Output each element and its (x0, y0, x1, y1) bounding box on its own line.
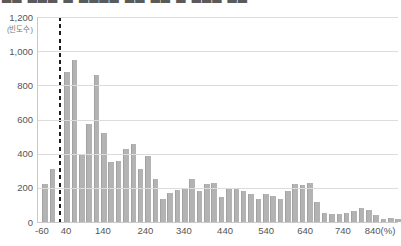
histogram-bar (270, 196, 276, 222)
histogram-bar (101, 133, 107, 222)
histogram-bar (138, 169, 144, 222)
histogram-bar (241, 191, 247, 222)
histogram-bar (256, 199, 262, 222)
x-tick-label: 840(%) (365, 225, 396, 236)
y-tick-label: 0 (0, 217, 33, 228)
histogram-bar (131, 144, 137, 222)
histogram-bar (322, 213, 328, 222)
gridline-1200 (38, 17, 399, 18)
histogram-bar (344, 213, 350, 222)
gridline-600 (38, 120, 399, 121)
frequency-histogram: ██ ███ █ ████ ██ ██ █ ███ ██ (빈도수) 02004… (0, 0, 401, 246)
y-tick-label: 800 (0, 80, 33, 91)
x-tick-label: -60 (35, 225, 49, 236)
gridline-200 (38, 188, 399, 189)
histogram-bar (300, 185, 306, 222)
histogram-bar (182, 188, 188, 222)
histogram-bar (167, 193, 173, 222)
x-tick-label: 640 (297, 225, 313, 236)
y-tick-label: 1,200 (0, 12, 33, 23)
histogram-bar (204, 184, 210, 222)
histogram-bar (50, 169, 56, 222)
histogram-bar (64, 72, 70, 222)
histogram-bar (42, 184, 48, 222)
histogram-bar (329, 214, 335, 222)
histogram-bar (351, 211, 357, 222)
histogram-bar (373, 215, 379, 222)
histogram-bar (381, 219, 387, 222)
histogram-bar (123, 149, 129, 222)
histogram-bar (153, 179, 159, 222)
histogram-bar (86, 124, 92, 222)
gridline-400 (38, 154, 399, 155)
clipped-title: ██ ███ █ ████ ██ ██ █ ███ ██ (2, 0, 248, 5)
x-tick-label: 40 (61, 225, 72, 236)
histogram-bar (226, 188, 232, 222)
histogram-bar (395, 219, 401, 222)
x-tick-label: 240 (137, 225, 153, 236)
plot-area (37, 17, 399, 223)
x-tick-label: 340 (176, 225, 192, 236)
histogram-bar (219, 197, 225, 222)
histogram-bar (359, 208, 365, 222)
histogram-bar (72, 60, 78, 222)
histogram-bar (197, 191, 203, 222)
histogram-bar (116, 161, 122, 223)
histogram-bar (388, 218, 394, 222)
x-tick-label: 140 (95, 225, 111, 236)
gridline-1000 (38, 51, 399, 52)
y-axis-unit-label: (빈도수) (2, 23, 33, 34)
x-tick-label: 740 (335, 225, 351, 236)
histogram-bar (366, 210, 372, 222)
histogram-bar (263, 194, 269, 222)
y-tick-label: 1,000 (0, 46, 33, 57)
histogram-bar (175, 190, 181, 222)
y-tick-label: 400 (0, 148, 33, 159)
histogram-bar (160, 199, 166, 222)
gridline-800 (38, 85, 399, 86)
histogram-bar (94, 75, 100, 222)
histogram-bar (285, 191, 291, 222)
x-tick-label: 540 (258, 225, 274, 236)
y-tick-label: 200 (0, 182, 33, 193)
histogram-bar (234, 189, 240, 222)
x-axis: -6040140240340440540640740840(%) (37, 225, 398, 239)
histogram-bar (145, 156, 151, 222)
histogram-bar (337, 214, 343, 222)
histogram-bar (292, 184, 298, 222)
y-axis: (빈도수) 02004006008001,0001,200 (0, 0, 33, 246)
histogram-bar (278, 199, 284, 222)
histogram-bar (314, 202, 320, 223)
histogram-bar (248, 194, 254, 222)
y-tick-label: 600 (0, 114, 33, 125)
x-tick-label: 440 (217, 225, 233, 236)
histogram-bar (108, 162, 114, 222)
histogram-bar (189, 179, 195, 222)
